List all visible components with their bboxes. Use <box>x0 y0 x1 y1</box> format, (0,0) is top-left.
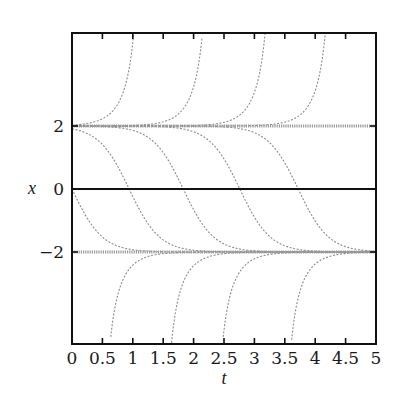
x-tick-label: 3 <box>249 348 260 368</box>
x-axis-label: t <box>221 368 227 388</box>
x-tick-label: 3.5 <box>271 348 298 368</box>
solution-curve <box>72 38 202 126</box>
solution-curve <box>72 35 134 125</box>
solution-curve <box>223 252 376 337</box>
x-axis-ticks: 00.511.522.533.544.55 <box>67 33 382 368</box>
y-tick-label: −2 <box>39 242 64 262</box>
solution-curve <box>111 252 376 337</box>
x-tick-label: 0 <box>67 348 78 368</box>
x-tick-label: 4 <box>310 348 321 368</box>
chart: 00.511.522.533.544.55 −202 t x <box>0 0 398 404</box>
solution-curve <box>72 189 376 252</box>
x-tick-label: 0.5 <box>89 348 116 368</box>
solution-curve <box>292 252 376 340</box>
x-tick-label: 2.5 <box>210 348 237 368</box>
equilibrium-lines <box>72 126 376 252</box>
y-axis-label: x <box>27 178 36 198</box>
solution-curve <box>72 35 325 126</box>
x-tick-label: 2 <box>188 348 199 368</box>
solution-curve <box>72 34 265 126</box>
x-tick-label: 1 <box>127 348 138 368</box>
x-tick-label: 4.5 <box>332 348 359 368</box>
y-tick-label: 0 <box>53 179 64 199</box>
solution-curve <box>172 252 376 343</box>
x-tick-label: 1.5 <box>150 348 177 368</box>
y-tick-label: 2 <box>53 116 64 136</box>
x-tick-label: 5 <box>371 348 382 368</box>
solution-curve <box>72 129 376 252</box>
